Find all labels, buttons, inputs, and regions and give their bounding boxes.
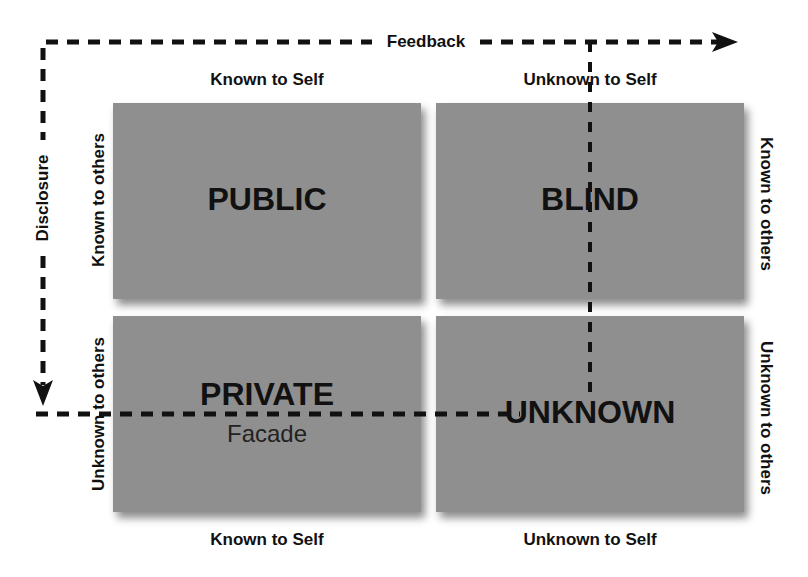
disclosure-label: Disclosure (33, 148, 53, 248)
feedback-label: Feedback (374, 32, 478, 52)
arrows-overlay (0, 0, 808, 577)
